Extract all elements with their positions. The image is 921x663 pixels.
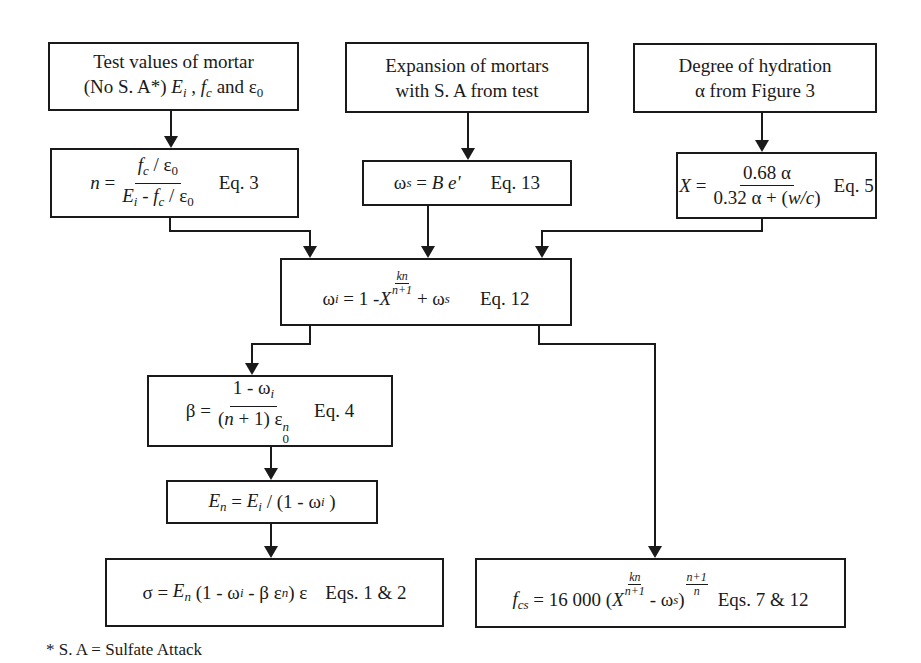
eq1-2-box: σ = En (1 - ωi - β εn) ε Eqs. 1 & 2 [105,558,444,627]
test-values-line1: Test values of mortar [84,49,264,74]
eq13-label: Eq. 13 [491,172,541,194]
eq4-label: Eq. 4 [314,400,354,422]
eq4-box: β = 1 - ωi (n + 1) εn0 Eq. 4 [147,375,393,447]
eq12-box: ωi = 1 - Xknn+1 + ωs Eq. 12 [280,258,572,326]
eq7-12-box: fcs = 16 000 (Xknn+1 - ωs)n+1n Eqs. 7 & … [475,558,846,628]
eq3-formula: n = fc / ε0 Ei - fc / ε0 Eq. 3 [90,154,258,213]
eq13-box: ωs = B e' Eq. 13 [362,160,572,206]
eq4-formula: β = 1 - ωi (n + 1) εn0 Eq. 4 [186,377,354,445]
eq13-formula: ωs = B e' Eq. 13 [394,172,540,194]
eq3-box: n = fc / ε0 Ei - fc / ε0 Eq. 3 [50,148,299,218]
and-text: and [217,76,244,97]
footnote: * S. A = Sulfate Attack [46,640,202,660]
expansion-line1: Expansion of mortars [385,53,549,78]
eq1-2-label: Eqs. 1 & 2 [325,582,406,604]
eq5-numerator: 0.68 α [740,162,794,186]
hydration-line1: Degree of hydration [679,53,832,78]
eq12-label: Eq. 12 [480,288,530,310]
en-box: En = Ei / (1 - ωi ) [166,480,378,524]
test-values-prefix: (No S. A*) [84,76,172,97]
en-formula: En = Ei / (1 - ωi ) [208,490,335,515]
eq7-12-formula: fcs = 16 000 (Xknn+1 - ωs)n+1n Eqs. 7 & … [512,573,808,614]
eq1-2-formula: σ = En (1 - ωi - β εn) ε Eqs. 1 & 2 [142,580,406,605]
eq5-box: X = 0.68 α 0.32 α + (w/c) Eq. 5 [676,152,877,219]
eq7-12-label: Eqs. 7 & 12 [718,589,809,611]
hydration-line2: α from Figure 3 [679,78,832,103]
expansion-line2: with S. A from test [385,78,549,103]
test-values-box: Test values of mortar (No S. A*) Ei , fc… [48,42,299,111]
expansion-box: Expansion of mortars with S. A from test [345,42,589,113]
test-values-line2: (No S. A*) Ei , fc and ε0 [84,74,264,105]
eq5-label: Eq. 5 [834,175,874,197]
eq12-formula: ωi = 1 - Xknn+1 + ωs Eq. 12 [322,272,529,313]
hydration-box: Degree of hydration α from Figure 3 [633,43,877,113]
eq3-label: Eq. 3 [219,172,259,194]
eq5-formula: X = 0.68 α 0.32 α + (w/c) Eq. 5 [679,162,873,209]
